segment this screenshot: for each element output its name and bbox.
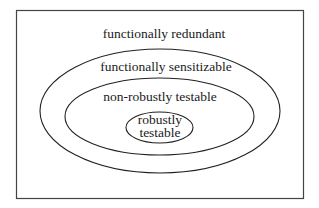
label-functionally-redundant: functionally redundant <box>103 26 226 41</box>
label-non-robustly-testable: non-robustly testable <box>103 89 217 104</box>
nested-sets-diagram: functionally redundant functionally sens… <box>0 0 319 208</box>
label-robustly-testable-line2: testable <box>139 125 180 140</box>
label-functionally-sensitizable: functionally sensitizable <box>100 59 232 74</box>
